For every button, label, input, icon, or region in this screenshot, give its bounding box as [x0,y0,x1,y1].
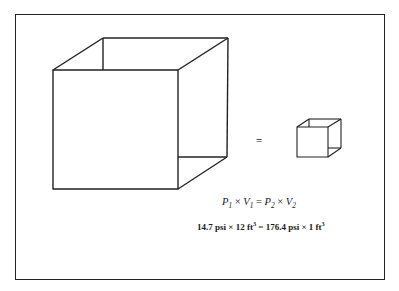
left-pressure: 14.7 psi [197,222,226,232]
right-volume: 1 ft [309,222,322,232]
times-2: × [275,196,286,207]
times-2: × [299,222,309,232]
equals-sign: = [256,134,262,146]
equals: = [256,222,266,232]
v2-sub: 2 [292,201,296,210]
times-1: × [226,222,236,232]
cube-diagram [0,0,399,291]
numeric-formula: 14.7 psi × 12 ft3 = 176.4 psi × 1 ft3 [197,222,325,232]
small-cube [297,119,341,157]
times-1: × [232,196,243,207]
right-pressure: 176.4 psi [266,222,300,232]
boyle-law-formula: P1 × V1 = P2 × V2 [222,196,296,207]
left-volume: 12 ft [236,222,253,232]
right-volume-exp: 3 [322,220,325,227]
equals: = [253,196,264,207]
large-cube [53,38,228,189]
